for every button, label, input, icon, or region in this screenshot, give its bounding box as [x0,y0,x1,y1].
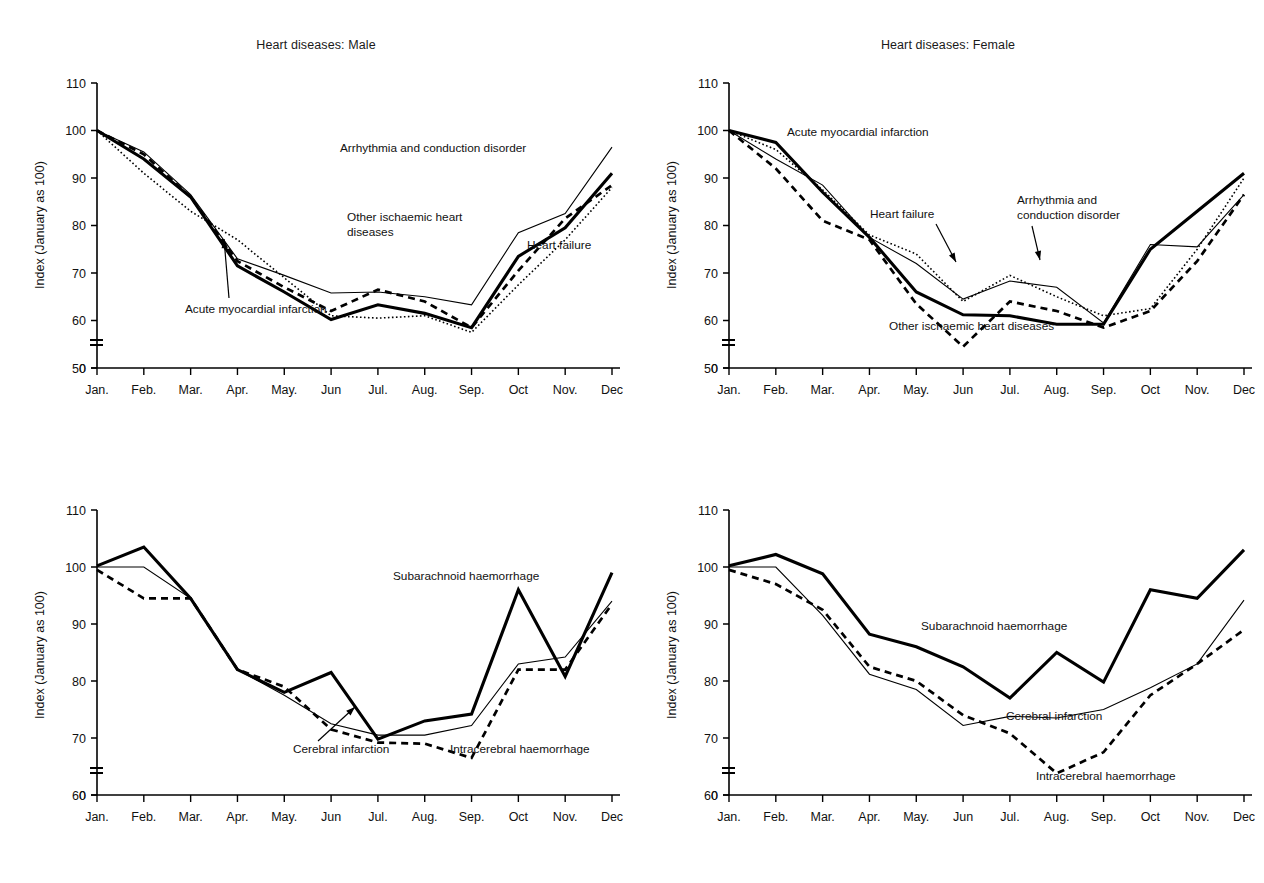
y-tick-label: 80 [72,675,86,689]
panel-cerebro-female: Cerebrovascular diseases: Female 1101009… [632,450,1264,883]
series-annotation-label: Arrhythmia and [1017,193,1097,207]
x-tick-label: Mar. [178,810,202,824]
x-tick-label: Jun [321,810,341,824]
y-tick-label: 70 [72,267,86,281]
series-annotation-label: diseases [347,225,394,239]
y-tick-label: 110 [698,504,718,518]
chart-title-heart-male: Heart diseases: Male [0,38,632,52]
y-axis-title: Index (January as 100) [33,591,47,719]
chart-heart-male: 11010090807060500Jan.Feb.Mar.Apr.May.Jun… [0,0,632,450]
x-tick-label: Sep. [1091,810,1117,824]
x-tick-label: Jul. [368,383,387,397]
y-tick-label: 110 [66,504,86,518]
y-tick-label: 80 [704,675,718,689]
y-tick-label: 0 [711,789,718,803]
x-tick-label: Feb. [131,383,156,397]
y-axis-title: Index (January as 100) [33,161,47,289]
series-line [729,131,1244,316]
x-tick-label: Nov. [1185,810,1210,824]
x-tick-label: Dec [601,383,623,397]
series-annotation-label: Cerebral infarction [1006,709,1102,723]
x-tick-label: Apr. [226,810,248,824]
y-tick-label: 100 [697,124,718,138]
series-annotation-label: Other ischaemic heart diseases [889,319,1054,333]
y-tick-label: 90 [72,618,86,632]
x-tick-label: Oct [509,810,529,824]
series-annotation-label: Other ischaemic heart [347,210,463,224]
chart-title-heart-female: Heart diseases: Female [632,38,1264,52]
series-line [729,567,1244,725]
x-tick-label: Apr. [858,810,880,824]
panel-heart-female: Heart diseases: Female 11010090807060500… [632,0,1264,450]
series-annotation-label: Arrhythmia and conduction disorder [340,141,526,155]
series-annotation-label: Acute myocardial infarction [787,125,929,139]
x-tick-label: Apr. [858,383,880,397]
series-annotation-label: Intracerebral haemorrhage [450,742,590,756]
x-tick-label: Jan. [717,383,741,397]
y-tick-label: 60 [72,314,86,328]
x-tick-label: Jun [953,383,973,397]
series-annotation-label: Subarachnoid haemorrhage [921,619,1068,633]
y-tick-label: 0 [711,362,718,376]
x-tick-label: Mar. [810,383,834,397]
x-tick-label: Dec [1233,810,1255,824]
series-annotation-label: Acute myocardial infarction [185,302,327,316]
x-tick-label: Jul. [1000,810,1019,824]
y-tick-label: 90 [72,172,86,186]
x-tick-label: Jul. [1000,383,1019,397]
x-tick-label: Mar. [810,810,834,824]
y-tick-label: 70 [704,732,718,746]
series-line [97,567,612,735]
y-tick-label: 0 [79,362,86,376]
x-tick-label: May. [271,383,297,397]
x-tick-label: Jun [321,383,341,397]
x-tick-label: Dec [601,810,623,824]
x-tick-label: Feb. [763,810,788,824]
y-tick-label: 110 [66,77,86,91]
y-tick-label: 80 [72,219,86,233]
series-annotation-label: Subarachnoid haemorrhage [393,569,540,583]
x-tick-label: Aug. [412,383,438,397]
x-tick-label: Sep. [1091,383,1117,397]
x-tick-label: Nov. [553,810,578,824]
y-axis-title: Index (January as 100) [665,161,679,289]
series-annotation-label: Heart failure [870,207,935,221]
x-tick-label: Mar. [178,383,202,397]
x-tick-label: Jan. [85,810,109,824]
chart-cerebro-female: 110100908070600Jan.Feb.Mar.Apr.May.JunJu… [632,450,1264,883]
y-tick-label: 70 [704,267,718,281]
series-annotation-label: Cerebral infarction [293,742,389,756]
annotation-arrowhead [1035,251,1041,260]
x-tick-label: Dec [1233,383,1255,397]
y-tick-label: 90 [704,618,718,632]
x-tick-label: Jun [953,810,973,824]
y-tick-label: 0 [79,789,86,803]
series-annotation-label: Intracerebral haemorrhage [1036,769,1176,783]
x-tick-label: Feb. [763,383,788,397]
x-tick-label: Feb. [131,810,156,824]
series-annotation-label: conduction disorder [1017,208,1120,222]
y-axis-title: Index (January as 100) [665,591,679,719]
series-line [729,570,1244,773]
annotation-arrowhead [949,253,956,262]
series-annotation-label: Heart failure [527,238,592,252]
series-line [729,131,1244,323]
y-tick-label: 100 [65,561,86,575]
y-tick-label: 90 [704,172,718,186]
x-tick-label: Aug. [412,810,438,824]
y-tick-label: 70 [72,732,86,746]
x-tick-label: Apr. [226,383,248,397]
x-tick-label: Jan. [717,810,741,824]
x-tick-label: Sep. [459,810,485,824]
x-tick-label: May. [903,383,929,397]
x-tick-label: May. [903,810,929,824]
y-tick-label: 100 [697,561,718,575]
y-tick-label: 100 [65,124,86,138]
y-tick-label: 60 [704,314,718,328]
x-tick-label: Oct [509,383,529,397]
chart-cerebro-male: 110100908070600Jan.Feb.Mar.Apr.May.JunJu… [0,450,632,883]
chart-grid: Heart diseases: Male 11010090807060500Ja… [0,0,1264,883]
x-tick-label: Aug. [1044,383,1070,397]
x-tick-label: Aug. [1044,810,1070,824]
chart-heart-female: 11010090807060500Jan.Feb.Mar.Apr.May.Jun… [632,0,1264,450]
